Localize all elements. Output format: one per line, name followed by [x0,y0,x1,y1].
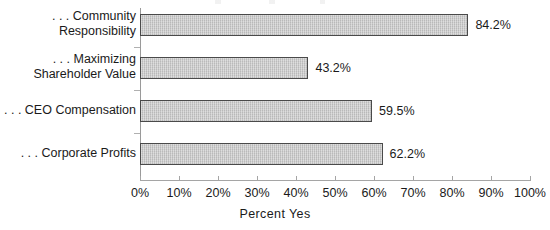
category-label: . . . CEO Compensation [1,103,136,118]
x-axis-title: Percent Yes [0,207,550,221]
x-axis-tick-label: 80% [439,186,464,200]
plot-area: 84.2%43.2%59.5%62.2% [140,8,530,180]
x-axis-tick-label: 50% [322,186,347,200]
category-label: . . . Maximizing Shareholder Value [1,52,136,82]
category-axis-labels: . . . Community Responsibility. . . Maxi… [0,8,136,180]
x-axis-tick-label: 30% [244,186,269,200]
x-axis-tick [179,176,180,181]
x-axis-tick [491,176,492,181]
category-label: . . . Community Responsibility [1,9,136,39]
bar [140,14,468,36]
x-axis-tick [296,176,297,181]
bar-value-label: 59.5% [379,100,414,122]
bar-value-label: 62.2% [390,143,425,165]
x-axis-tick [530,176,531,181]
x-axis-tick-label: 60% [361,186,386,200]
x-axis-tick-label: 70% [400,186,425,200]
bar-value-label: 43.2% [315,57,350,79]
y-axis-tick [134,133,140,134]
x-axis-tick-label: 20% [205,186,230,200]
x-axis-tick [335,176,336,181]
bar [140,57,308,79]
x-axis-tick [257,176,258,181]
x-axis-tick [413,176,414,181]
category-label: . . . Corporate Profits [1,146,136,161]
bar-value-label: 84.2% [475,14,510,36]
cropped-title-artifact [190,0,370,4]
x-axis-tick-label: 100% [514,186,546,200]
x-axis-tick-label: 90% [478,186,503,200]
x-axis-tick [218,176,219,181]
x-axis-tick [140,176,141,181]
y-axis-tick [134,47,140,48]
bar [140,100,372,122]
x-axis-tick [374,176,375,181]
x-axis-tick-label: 10% [166,186,191,200]
x-axis-tick [452,176,453,181]
y-axis-tick [134,90,140,91]
bar-chart: . . . Community Responsibility. . . Maxi… [0,0,550,230]
x-axis-tick-label: 40% [283,186,308,200]
bar [140,143,383,165]
x-axis-tick-label: 0% [131,186,149,200]
